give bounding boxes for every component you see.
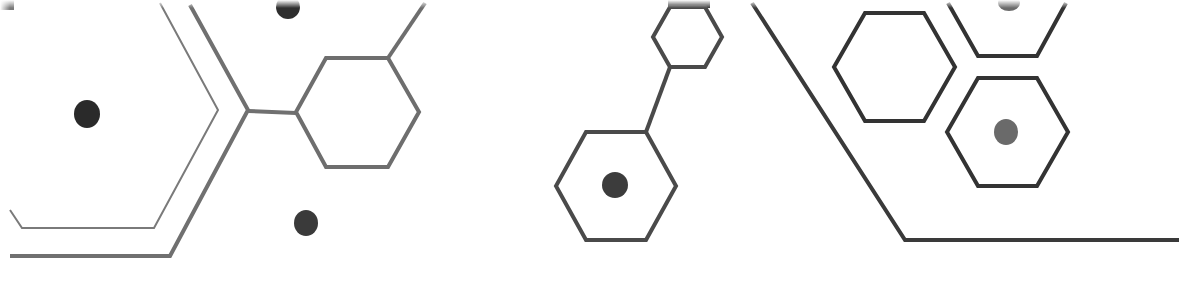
dot-icon [602, 172, 628, 198]
dot-icon [294, 210, 318, 236]
hexagon-empty [834, 13, 955, 121]
bond-line [248, 111, 296, 113]
middle-hexagon-group [556, 0, 722, 240]
right-hexagon-group [752, 0, 1179, 240]
dot-icon [276, 0, 300, 19]
bond-top-line [388, 3, 425, 58]
dot-icon [998, 0, 1020, 11]
hexagon-left [296, 58, 419, 167]
hexagon-top-partial [948, 3, 1066, 56]
thin-chevron-line [10, 3, 218, 228]
corner-bar [0, 0, 14, 10]
dot-icon [74, 100, 100, 128]
bond-line [646, 67, 670, 132]
thick-bracket-line [10, 5, 248, 256]
hexagon-pattern-artwork [0, 0, 1179, 286]
dot-icon [994, 119, 1018, 145]
left-hexagon-group [0, 0, 425, 256]
left-dots [74, 0, 318, 236]
hexagon-small [653, 7, 722, 67]
bracket-line [752, 3, 1179, 240]
